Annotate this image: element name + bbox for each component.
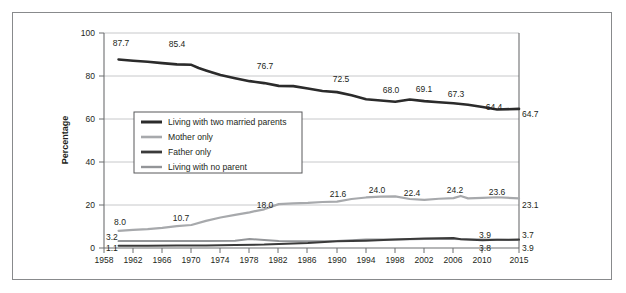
legend-label-father-only: Father only <box>168 147 212 157</box>
data-label-8-0: 8.0 <box>114 217 126 227</box>
data-label-24-0: 24.0 <box>369 185 386 195</box>
x-tick-label-1978: 1978 <box>240 255 259 265</box>
data-label-3-2: 3.2 <box>106 232 118 242</box>
x-tick-label-1990: 1990 <box>328 255 347 265</box>
y-tick-label-20: 20 <box>86 200 96 210</box>
data-label-3-9-outside: 3.9 <box>522 243 534 253</box>
x-tick-label-1998: 1998 <box>386 255 405 265</box>
x-tick-label-1986: 1986 <box>298 255 317 265</box>
data-label-21-6: 21.6 <box>330 189 347 199</box>
data-label-3-8-father: 3.8 <box>479 243 491 253</box>
data-label-18-0: 18.0 <box>257 200 274 210</box>
chart-legend: Living with two married parents Mother o… <box>134 112 302 173</box>
y-tick-label-40: 40 <box>86 157 96 167</box>
y-ticks <box>99 33 104 248</box>
x-tick-labels: 1958 1962 1966 1970 1974 1978 1982 1986 … <box>95 255 529 265</box>
data-label-76-7: 76.7 <box>257 61 274 71</box>
x-tick-label-1974: 1974 <box>211 255 230 265</box>
legend-label-living-with-two-married-parents: Living with two married parents <box>168 117 286 127</box>
y-tick-labels: 100 80 60 40 20 0 <box>81 28 95 253</box>
x-ticks <box>104 248 519 253</box>
data-label-64-7-outside: 64.7 <box>522 109 539 119</box>
data-label-67-3: 67.3 <box>448 89 465 99</box>
legend-label-living-with-no-parent: Living with no parent <box>168 162 247 172</box>
data-label-85-4: 85.4 <box>169 39 186 49</box>
data-label-10-7: 10.7 <box>173 213 190 223</box>
x-tick-label-1966: 1966 <box>153 255 172 265</box>
y-tick-label-80: 80 <box>86 71 96 81</box>
data-label-24-2: 24.2 <box>447 185 464 195</box>
x-tick-label-1994: 1994 <box>357 255 376 265</box>
data-label-87-7: 87.7 <box>113 38 130 48</box>
data-label-72-5: 72.5 <box>333 74 350 84</box>
y-axis-title: Percentage <box>60 116 70 165</box>
data-label-3-9-noparent: 3.9 <box>479 230 491 240</box>
data-label-1-1: 1.1 <box>106 243 118 253</box>
data-label-22-4: 22.4 <box>404 188 421 198</box>
data-label-69-1: 69.1 <box>416 84 433 94</box>
x-tick-label-1962: 1962 <box>124 255 143 265</box>
data-label-23-1-outside: 23.1 <box>522 200 539 210</box>
x-tick-label-2015: 2015 <box>510 255 529 265</box>
series-line-living-with-two-married-parents <box>119 59 519 109</box>
y-tick-label-0: 0 <box>90 243 95 253</box>
x-tick-label-1982: 1982 <box>269 255 288 265</box>
x-tick-label-2002: 2002 <box>415 255 434 265</box>
line-chart-svg: 100 80 60 40 20 0 Percentage 1958 1962 1… <box>0 0 626 293</box>
data-label-3-7-outside: 3.7 <box>522 230 534 240</box>
y-tick-label-100: 100 <box>81 28 95 38</box>
data-label-64-4: 64.4 <box>486 102 503 112</box>
x-tick-label-1958: 1958 <box>95 255 114 265</box>
legend-label-mother-only: Mother only <box>168 132 214 142</box>
data-label-23-6: 23.6 <box>489 187 506 197</box>
y-tick-label-60: 60 <box>86 114 96 124</box>
x-tick-label-2010: 2010 <box>473 255 492 265</box>
x-tick-label-2006: 2006 <box>444 255 463 265</box>
chart-canvas: 100 80 60 40 20 0 Percentage 1958 1962 1… <box>0 0 626 293</box>
x-tick-label-1970: 1970 <box>182 255 201 265</box>
data-label-68-0: 68.0 <box>383 85 400 95</box>
